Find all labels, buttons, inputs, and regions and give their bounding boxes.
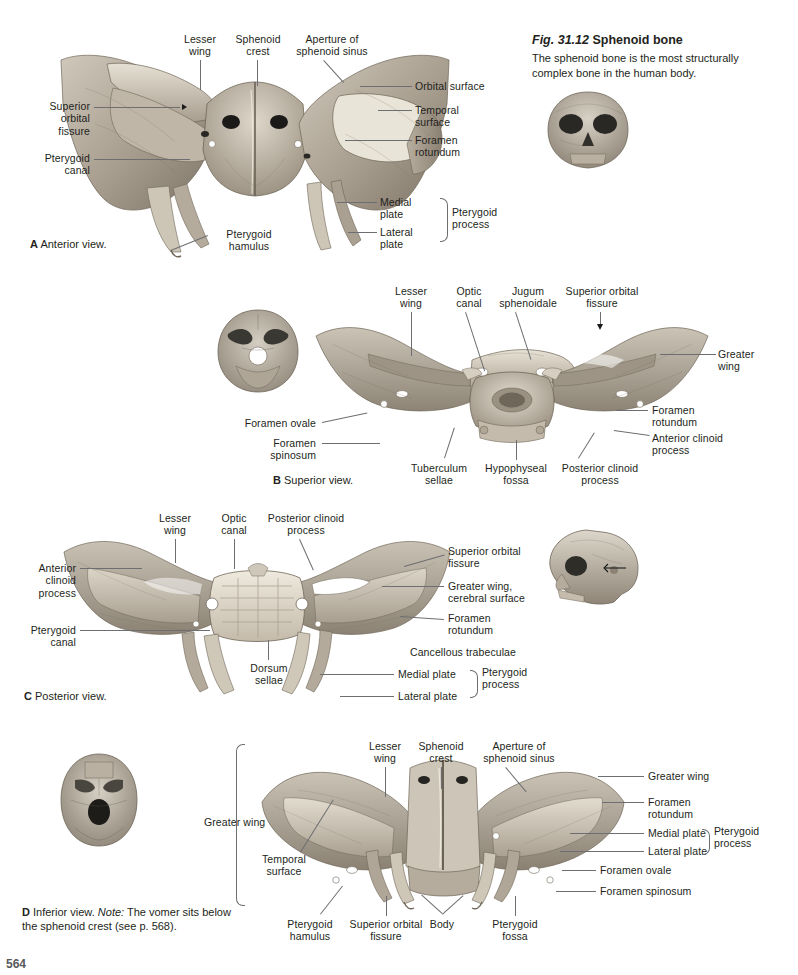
leader-c-lateral-plate bbox=[340, 696, 394, 697]
specimen-inferior-view bbox=[258, 758, 628, 910]
label-a-pterygoid-process: Pterygoid process bbox=[452, 206, 524, 231]
leader-b-lesser-wing bbox=[411, 312, 412, 356]
label-d-body: Body bbox=[418, 918, 466, 930]
leader-b-greater-wing bbox=[660, 354, 716, 355]
label-d-pterygoid-process: Pterygoid process bbox=[714, 825, 786, 850]
label-a-medial-plate: Medial plate bbox=[380, 196, 442, 221]
label-c-superior-orbital-fissure: Superior orbital fissure bbox=[448, 545, 548, 570]
label-b-superior-orbital-fissure: Superior orbital fissure bbox=[552, 285, 652, 310]
leader-a-sphenoid-crest bbox=[257, 60, 258, 86]
brace-d-greater-wing-left bbox=[236, 744, 245, 906]
panel-b-letter: B bbox=[273, 474, 281, 486]
label-c-pterygoid-canal: Pterygoid canal bbox=[8, 624, 76, 649]
label-d-pterygoid-hamulus: Pterygoid hamulus bbox=[272, 918, 348, 943]
leader-a-foramen-rotundum bbox=[345, 140, 412, 141]
leader-a-temporal-surface bbox=[378, 110, 412, 111]
leader-d-foramen-ovale bbox=[562, 870, 596, 871]
thumbnail-skull-base-superior bbox=[212, 308, 304, 394]
leader-d-sphenoid-crest bbox=[441, 767, 442, 789]
panel-d-note-label: Note: bbox=[98, 906, 124, 918]
label-c-optic-canal: Optic canal bbox=[208, 512, 260, 537]
panel-d-caption-text: Inferior view. bbox=[33, 906, 98, 918]
label-c-lesser-wing: Lesser wing bbox=[148, 512, 202, 537]
label-d-greater-wing-right: Greater wing bbox=[648, 770, 744, 782]
label-d-greater-wing-left: Greater wing bbox=[204, 816, 292, 828]
thumbnail-skull-base-inferior bbox=[55, 752, 143, 848]
leader-a-superior-orbital-fissure bbox=[94, 107, 180, 108]
label-a-sphenoid-crest: Sphenoid crest bbox=[228, 33, 288, 58]
label-c-foramen-rotundum: Foramen rotundum bbox=[448, 612, 536, 637]
label-b-foramen-ovale: Foramen ovale bbox=[218, 417, 316, 429]
brace-c-pterygoid-process bbox=[470, 670, 478, 698]
leader-a-lesser-wing bbox=[200, 60, 201, 90]
panel-c-caption: Posterior view. bbox=[35, 690, 107, 702]
label-a-temporal-surface: Temporal surface bbox=[415, 104, 505, 129]
label-c-posterior-clinoid-process: Posterior clinoid process bbox=[258, 512, 354, 537]
leader-c-pterygoid-canal bbox=[80, 630, 210, 631]
leader-d-foramen-spinosum bbox=[556, 891, 596, 892]
panel-d-letter: D bbox=[22, 906, 30, 918]
leader-d-lateral-plate bbox=[560, 851, 644, 852]
figure-heading: Fig. 31.12 Sphenoid bone The sphenoid bo… bbox=[532, 30, 782, 80]
label-d-foramen-ovale: Foramen ovale bbox=[600, 864, 704, 876]
panel-a-caption: Anterior view. bbox=[40, 238, 106, 250]
label-a-orbital-surface: Orbital surface bbox=[415, 80, 525, 92]
leader-a-lateral-plate bbox=[348, 232, 377, 233]
leader-a-pterygoid-canal bbox=[94, 159, 190, 160]
label-b-posterior-clinoid-process: Posterior clinoid process bbox=[552, 462, 648, 487]
label-b-foramen-rotundum: Foramen rotundum bbox=[652, 404, 738, 429]
brace-a-pterygoid-process bbox=[440, 198, 448, 242]
label-a-pterygoid-canal: Pterygoid canal bbox=[14, 152, 90, 177]
label-a-pterygoid-hamulus: Pterygoid hamulus bbox=[212, 228, 286, 253]
label-d-lesser-wing: Lesser wing bbox=[358, 740, 412, 765]
leader-d-medial-plate bbox=[570, 833, 644, 834]
figure-description: The sphenoid bone is the most structural… bbox=[532, 51, 782, 80]
leader-d-lesser-wing bbox=[385, 767, 386, 797]
panel-a-letter: A bbox=[30, 238, 38, 250]
leader-d-greater-wing-right bbox=[598, 776, 644, 777]
leader-c-anterior-clinoid bbox=[80, 568, 142, 569]
leader-d-superior-orbital-fissure bbox=[386, 896, 387, 916]
label-d-aperture-sphenoid-sinus: Aperture of sphenoid sinus bbox=[472, 740, 566, 765]
panel-b-caption: Superior view. bbox=[284, 474, 353, 486]
label-a-lateral-plate: Lateral plate bbox=[380, 226, 442, 251]
label-b-greater-wing: Greater wing bbox=[718, 348, 782, 373]
caption-panel-d: D Inferior view. Note: The vomer sits be… bbox=[22, 906, 232, 933]
leader-d-pterygoid-fossa bbox=[515, 896, 516, 916]
arrow-a-superior-orbital-fissure bbox=[182, 104, 187, 110]
label-d-sphenoid-crest: Sphenoid crest bbox=[412, 740, 470, 765]
label-c-anterior-clinoid-process: Anterior clinoid process bbox=[8, 562, 76, 599]
label-b-anterior-clinoid-process: Anterior clinoid process bbox=[652, 432, 748, 457]
caption-panel-a: A Anterior view. bbox=[30, 238, 120, 252]
figure-number: Fig. 31.12 bbox=[532, 33, 589, 47]
leader-a-medial-plate bbox=[337, 202, 377, 203]
label-c-medial-plate: Medial plate bbox=[398, 668, 470, 680]
thumbnail-skull-anterior bbox=[540, 90, 636, 170]
leader-c-dorsum-sellae bbox=[268, 640, 269, 660]
label-b-hypophyseal-fossa: Hypophyseal fossa bbox=[478, 462, 554, 487]
label-b-foramen-spinosum: Foramen spinosum bbox=[240, 437, 316, 462]
arrow-b-superior-orbital-fissure bbox=[597, 324, 603, 330]
label-c-pterygoid-process: Pterygoid process bbox=[482, 666, 554, 691]
leader-b-foramen-spinosum bbox=[322, 443, 380, 444]
panel-c-letter: C bbox=[24, 690, 32, 702]
leader-c-optic-canal bbox=[234, 539, 235, 569]
caption-panel-c: C Posterior view. bbox=[24, 690, 114, 704]
label-c-lateral-plate: Lateral plate bbox=[398, 690, 470, 702]
leader-a-orbital-surface bbox=[360, 86, 412, 87]
page-number: 564 bbox=[6, 957, 26, 971]
label-b-lesser-wing: Lesser wing bbox=[384, 285, 438, 310]
figure-page: Fig. 31.12 Sphenoid bone The sphenoid bo… bbox=[0, 0, 798, 975]
label-a-foramen-rotundum: Foramen rotundum bbox=[415, 134, 505, 159]
label-c-greater-wing-cerebral-surface: Greater wing, cerebral surface bbox=[448, 580, 558, 605]
label-d-foramen-spinosum: Foramen spinosum bbox=[600, 885, 718, 897]
leader-c-medial-plate bbox=[320, 674, 394, 675]
brace-d-pterygoid-process bbox=[702, 829, 710, 855]
figure-title: Sphenoid bone bbox=[592, 33, 682, 47]
label-c-dorsum-sellae: Dorsum sellae bbox=[240, 662, 298, 687]
leader-b-foramen-rotundum bbox=[616, 410, 648, 411]
caption-panel-b: B Superior view. bbox=[273, 474, 433, 488]
leader-b-hypophyseal bbox=[516, 440, 517, 460]
leader-c-lesser-wing bbox=[175, 539, 176, 563]
leader-d-foramen-rotundum bbox=[602, 802, 644, 803]
